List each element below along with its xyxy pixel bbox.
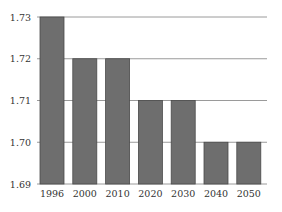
- bar-2050: [237, 142, 261, 184]
- x-tick-label: 2030: [171, 188, 195, 199]
- bar-chart: 1.731.721.711.701.69 1996200020102020203…: [0, 0, 282, 212]
- x-tick-label: 2050: [237, 188, 261, 199]
- y-tick-label: 1.69: [10, 179, 31, 190]
- x-axis-tick-labels: 1996200020102020203020402050: [40, 188, 261, 199]
- bar-2020: [138, 101, 162, 185]
- bar-2010: [106, 59, 130, 184]
- y-tick-label: 1.73: [10, 12, 31, 23]
- bar-2040: [204, 142, 228, 184]
- x-tick-label: 2020: [138, 188, 162, 199]
- x-tick-label: 2000: [73, 188, 97, 199]
- bar-2000: [73, 59, 97, 184]
- y-tick-label: 1.71: [10, 95, 31, 106]
- y-tick-label: 1.72: [10, 53, 31, 64]
- x-tick-label: 2040: [204, 188, 228, 199]
- y-tick-label: 1.70: [10, 137, 31, 148]
- x-tick-label: 1996: [40, 188, 64, 199]
- x-tick-label: 2010: [106, 188, 130, 199]
- bar-2030: [171, 101, 195, 185]
- bar-1996: [40, 17, 64, 184]
- y-axis-tick-labels: 1.731.721.711.701.69: [10, 12, 31, 190]
